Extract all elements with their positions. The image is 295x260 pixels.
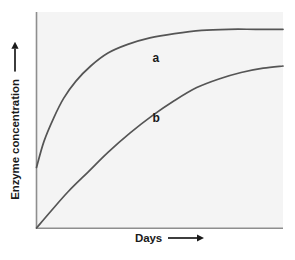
right-arrow-icon: [168, 233, 204, 243]
x-axis-title-block: Days: [135, 232, 204, 244]
y-axis-title-block: Enzyme concentration: [2, 28, 28, 214]
x-axis-title-text: Days: [135, 232, 162, 244]
chart-figure: a b Enzyme concentration Days: [0, 0, 295, 260]
y-axis-title-text: Enzyme concentration: [9, 79, 21, 200]
curve-label-b: b: [152, 111, 159, 125]
plot-canvas: a b: [0, 0, 295, 260]
up-arrow-icon: [10, 42, 20, 72]
curve-label-a: a: [152, 51, 159, 65]
y-axis-title-rotated: Enzyme concentration: [9, 42, 21, 200]
